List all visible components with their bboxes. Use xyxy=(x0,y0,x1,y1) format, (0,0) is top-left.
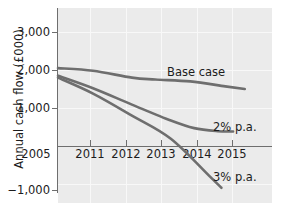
line-chart: 3,000 2,000 1,000 −1,000 2005 2011 2012 … xyxy=(0,0,282,213)
series-line-3-percent xyxy=(58,78,221,188)
series-label-3-percent: 3% p.a. xyxy=(213,170,257,184)
series-label-2-percent: 2% p.a. xyxy=(213,120,257,134)
series-label-base-case: Base case xyxy=(167,65,225,79)
